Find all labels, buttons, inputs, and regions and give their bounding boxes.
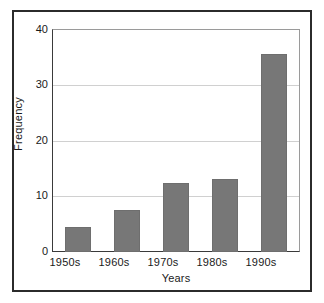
chart-figure: 40 30 20 10 0 Frequency 1950s 1960s 1970… (0, 0, 324, 303)
y-tick-label-40: 40 (18, 24, 48, 35)
x-tick-label-1960s: 1960s (86, 256, 142, 268)
y-axis-label: Frequency (12, 69, 24, 179)
bars-layer (53, 30, 299, 252)
bar-1960s[interactable] (114, 210, 140, 252)
bar-1950s[interactable] (65, 227, 91, 252)
bar-1990s[interactable] (261, 54, 287, 252)
bar-1970s[interactable] (163, 183, 189, 252)
x-tick-label-1980s: 1980s (184, 256, 240, 268)
bar-1980s[interactable] (212, 179, 238, 252)
x-tick-label-1990s: 1990s (233, 256, 289, 268)
x-tick-label-1950s: 1950s (37, 256, 93, 268)
y-tick-label-10: 10 (18, 190, 48, 201)
x-axis-label: Years (52, 272, 300, 284)
x-tick-label-1970s: 1970s (135, 256, 191, 268)
